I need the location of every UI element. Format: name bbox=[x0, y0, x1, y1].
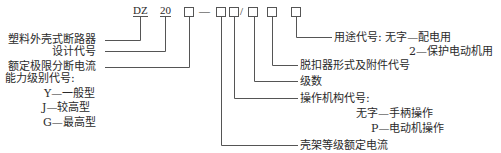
leader-release bbox=[273, 17, 299, 66]
placeholder-box-operating bbox=[230, 8, 239, 17]
leader-purpose bbox=[297, 17, 333, 38]
label-design-code: 设计代号 bbox=[52, 45, 96, 58]
label-capacity-level: 能力级别代号: bbox=[5, 72, 75, 85]
leader-breaker-type bbox=[105, 17, 141, 41]
leader-design-code bbox=[105, 17, 166, 52]
placeholder-box-capacity bbox=[185, 8, 194, 17]
label-frame-rated-current: 壳架等级额定电流 bbox=[300, 139, 388, 152]
placeholder-box-poles bbox=[249, 8, 258, 17]
operating-option-manual: 无字—手柄操作 bbox=[356, 107, 433, 120]
label-poles: 级数 bbox=[300, 75, 322, 88]
operating-option-motor: P—电动机操作 bbox=[371, 122, 444, 135]
placeholder-box-purpose bbox=[292, 8, 301, 17]
capacity-option-y: Y—一般型 bbox=[44, 87, 95, 100]
purpose-option-2: 2—保护电动机用 bbox=[409, 45, 493, 58]
label-purpose-code: 用途代号: 无字—配电用 bbox=[334, 31, 451, 44]
label-operating-mechanism: 操作机构代号: bbox=[300, 92, 370, 105]
capacity-option-j: J—较高型 bbox=[42, 101, 90, 114]
label-release-type: 脱扣器形式及附件代号 bbox=[300, 59, 410, 72]
leader-poles bbox=[255, 17, 299, 82]
leader-capacity bbox=[105, 17, 190, 68]
leader-operating bbox=[235, 17, 299, 99]
slash-separator: / bbox=[240, 5, 243, 18]
model-prefix: DZ bbox=[133, 4, 148, 17]
dash-separator: — bbox=[199, 5, 210, 18]
capacity-option-g: G—最高型 bbox=[43, 116, 96, 129]
placeholder-box-frame-current bbox=[217, 8, 226, 17]
placeholder-box-release bbox=[268, 8, 277, 17]
design-number: 20 bbox=[160, 4, 171, 17]
